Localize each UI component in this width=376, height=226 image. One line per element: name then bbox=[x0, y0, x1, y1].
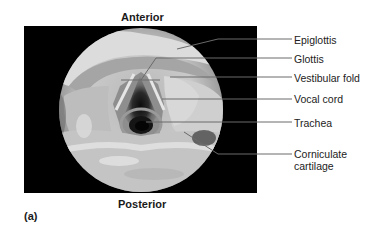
epiglottis-leader bbox=[177, 39, 292, 49]
label-vocal-cord: Vocal cord bbox=[294, 93, 343, 105]
label-vestibular-fold: Vestibular fold bbox=[294, 72, 360, 84]
label-corniculate: Corniculate bbox=[294, 148, 347, 160]
label-glottis: Glottis bbox=[294, 53, 324, 65]
label-epiglottis: Epiglottis bbox=[294, 34, 337, 46]
posterior-label: Posterior bbox=[118, 198, 166, 210]
panel-label: (a) bbox=[24, 210, 37, 222]
label-trachea: Trachea bbox=[294, 117, 332, 129]
label-cartilage: cartilage bbox=[294, 160, 334, 172]
corniculate-leader bbox=[184, 132, 292, 154]
